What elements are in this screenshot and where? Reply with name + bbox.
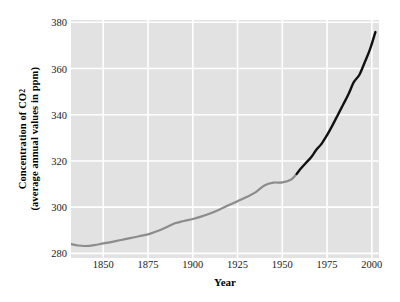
y-axis-title-line1: Concentration of CO2 [18, 89, 29, 189]
x-tick-label: 1875 [138, 259, 159, 270]
x-tick-label: 1850 [93, 259, 114, 270]
y-tick-label: 280 [51, 248, 67, 259]
plot-area [71, 20, 379, 258]
y-tick-label: 300 [51, 202, 67, 213]
x-axis-tick-labels: 1850187519001925195019752000 [71, 259, 379, 275]
y-axis-tick-labels: 280300320340360380 [44, 20, 69, 258]
x-tick-label: 1900 [182, 259, 203, 270]
y-axis-title-line2: (average annual values in ppm) [30, 67, 41, 211]
x-axis-title: Year [71, 276, 379, 288]
co2-subscript: 2 [18, 89, 27, 93]
plot-background [71, 20, 379, 258]
x-tick-label: 1925 [227, 259, 248, 270]
co2-concentration-chart: Concentration of CO2 (average annual val… [0, 0, 400, 302]
y-axis-title: Concentration of CO2 (average annual val… [14, 20, 44, 258]
x-tick-label: 1975 [317, 259, 338, 270]
y-tick-label: 380 [51, 17, 67, 28]
x-tick-label: 2000 [361, 259, 382, 270]
y-tick-label: 320 [51, 155, 67, 166]
y-tick-label: 360 [51, 63, 67, 74]
x-tick-label: 1950 [272, 259, 293, 270]
y-tick-label: 340 [51, 109, 67, 120]
